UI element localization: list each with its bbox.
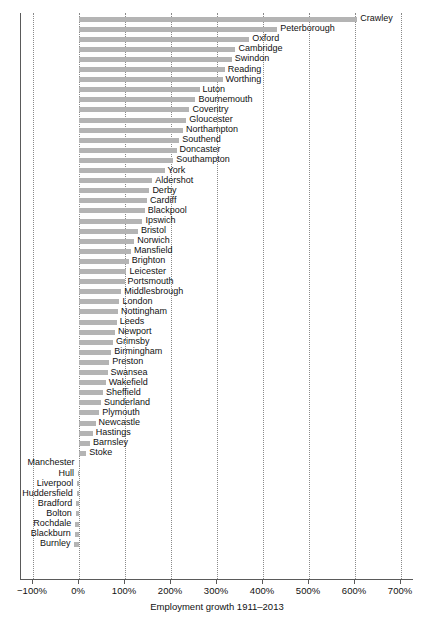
bar (79, 320, 117, 325)
bar (79, 67, 225, 72)
bar (79, 148, 177, 153)
bar (75, 522, 79, 527)
bar-label: Peterborough (280, 23, 335, 34)
bar (79, 431, 93, 436)
bar-label: Worthing (226, 74, 262, 85)
bar-row: Oxford (21, 35, 413, 45)
bar (79, 219, 142, 224)
bar (75, 532, 79, 537)
bar-row: Swindon (21, 55, 413, 65)
bar-row: Birmingham (21, 348, 413, 358)
bar-row: Bradford (21, 500, 413, 510)
bar-row: Hull (21, 470, 413, 480)
x-tick-label: 500% (296, 585, 320, 597)
bar-row: Aldershot (21, 177, 413, 187)
bar (79, 340, 113, 345)
x-tick-label: −100% (17, 585, 47, 597)
bar-row: Crawley (21, 15, 413, 25)
bar-row: Reading (21, 66, 413, 76)
bar (79, 17, 357, 22)
bar (79, 87, 200, 92)
bar (79, 461, 80, 466)
bar-row: York (21, 167, 413, 177)
bar-label: Stoke (89, 447, 112, 458)
bar-row: Nottingham (21, 308, 413, 318)
bar-row: Hastings (21, 429, 413, 439)
bar-row: Portsmouth (21, 278, 413, 288)
bar (79, 208, 145, 213)
bar-row: Derby (21, 187, 413, 197)
bar-row: Swansea (21, 369, 413, 379)
x-tick-label: 400% (250, 585, 274, 597)
x-tick (170, 580, 171, 584)
bar (79, 57, 232, 62)
bar (76, 501, 79, 506)
bar (79, 289, 121, 294)
bar-row: Sheffield (21, 389, 413, 399)
x-axis-title: Employment growth 1911–2013 (0, 601, 434, 612)
bar-row: Southampton (21, 156, 413, 166)
bar (79, 188, 149, 193)
bar (79, 229, 138, 234)
bar (79, 138, 179, 143)
bar-row: Blackburn (21, 530, 413, 540)
bar (79, 410, 99, 415)
bar (79, 107, 189, 112)
bar (79, 309, 118, 314)
bar (79, 118, 186, 123)
bar (79, 128, 183, 133)
bar-row: Blackpool (21, 207, 413, 217)
x-tick (262, 580, 263, 584)
bar (79, 451, 86, 456)
bar (78, 471, 79, 476)
bar (79, 350, 111, 355)
bar-row: Burnley (21, 540, 413, 550)
bar (79, 27, 277, 32)
x-tick-label: 300% (204, 585, 228, 597)
bar (79, 168, 165, 173)
bar (79, 299, 119, 304)
employment-growth-bar-chart: CrawleyPeterboroughOxfordCambridgeSwindo… (0, 0, 434, 628)
bar-row: Norwich (21, 237, 413, 247)
bar (79, 239, 134, 244)
x-tick-label: 100% (112, 585, 136, 597)
bar (79, 198, 147, 203)
bar (77, 491, 79, 496)
bar (79, 330, 115, 335)
bar (79, 47, 235, 52)
bar (79, 279, 125, 284)
x-tick-label: 0% (71, 585, 85, 597)
bar-row: Manchester (21, 459, 413, 469)
bar (79, 269, 126, 274)
bar-row: Barnsley (21, 439, 413, 449)
bar-row: Peterborough (21, 25, 413, 35)
bar (79, 178, 152, 183)
bar-row: Plymouth (21, 409, 413, 419)
bar (79, 97, 195, 102)
bar-row: Bristol (21, 227, 413, 237)
bar-row: Cardiff (21, 197, 413, 207)
bar-row: Liverpool (21, 480, 413, 490)
bar-row: Leicester (21, 268, 413, 278)
x-tick (308, 580, 309, 584)
bar-row: Cambridge (21, 45, 413, 55)
bar (79, 259, 129, 264)
plot-area: CrawleyPeterboroughOxfordCambridgeSwindo… (20, 13, 413, 580)
bar (79, 390, 103, 395)
x-tick (354, 580, 355, 584)
x-tick-label: 700% (388, 585, 412, 597)
bar-row: Newport (21, 328, 413, 338)
bar-row: Grimsby (21, 338, 413, 348)
x-tick (124, 580, 125, 584)
bar (79, 249, 131, 254)
bar (79, 77, 223, 82)
bar-row: London (21, 298, 413, 308)
bar-row: Newcastle (21, 419, 413, 429)
bar-row: Middlesbrough (21, 288, 413, 298)
bar-row: Huddersfield (21, 490, 413, 500)
bar-row: Stoke (21, 449, 413, 459)
bar-label: Crawley (360, 13, 393, 24)
bar-row: Bolton (21, 510, 413, 520)
x-tick-label: 600% (342, 585, 366, 597)
bar (79, 441, 90, 446)
